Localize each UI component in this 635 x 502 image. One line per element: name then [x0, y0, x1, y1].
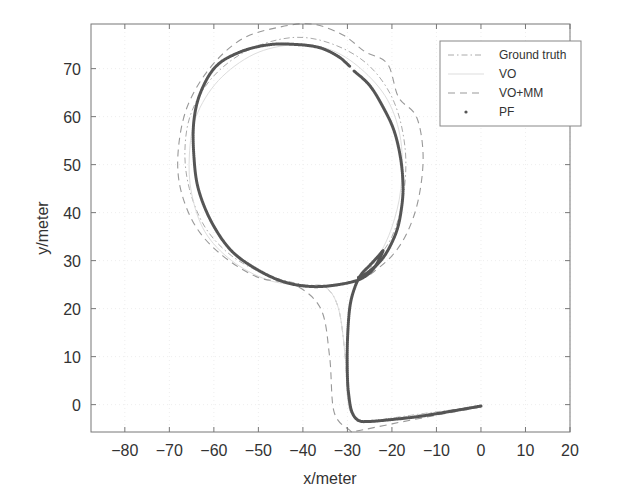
x-tick-label: −30: [334, 442, 361, 459]
y-tick-label: 10: [63, 349, 81, 366]
series-vo: [189, 44, 481, 422]
x-tick-label: 20: [561, 442, 579, 459]
x-axis-label: x/meter: [303, 470, 357, 487]
x-tick-label: 10: [517, 442, 535, 459]
x-tick-label: −10: [423, 442, 450, 459]
x-tick-label: −60: [200, 442, 227, 459]
legend-label: VO+MM: [499, 86, 543, 100]
x-tick-label: −20: [378, 442, 405, 459]
y-tick-label: 60: [63, 109, 81, 126]
x-tick-label: −80: [111, 442, 138, 459]
x-tick-label: −40: [289, 442, 316, 459]
y-tick-label: 70: [63, 61, 81, 78]
trajectory-chart: −80−70−60−50−40−30−20−100102001020304050…: [0, 0, 635, 502]
series-pf-segment-2: [354, 71, 403, 277]
series-pf: [193, 44, 481, 422]
y-tick-label: 40: [63, 205, 81, 222]
x-tick-label: −70: [156, 442, 183, 459]
legend-label: PF: [499, 105, 514, 119]
series-layer: [178, 24, 481, 432]
series-vo-mm: [178, 24, 481, 432]
x-tick-label: 0: [477, 442, 486, 459]
legend-marker-dot: [464, 110, 467, 113]
x-tick-label: −50: [245, 442, 272, 459]
legend-label: VO: [499, 67, 516, 81]
y-axis-label: y/meter: [34, 201, 51, 255]
y-tick-label: 30: [63, 253, 81, 270]
y-tick-label: 20: [63, 301, 81, 318]
legend: Ground truthVOVO+MMPF: [440, 41, 581, 126]
legend-label: Ground truth: [499, 48, 566, 62]
y-tick-label: 0: [72, 397, 81, 414]
y-tick-label: 50: [63, 157, 81, 174]
